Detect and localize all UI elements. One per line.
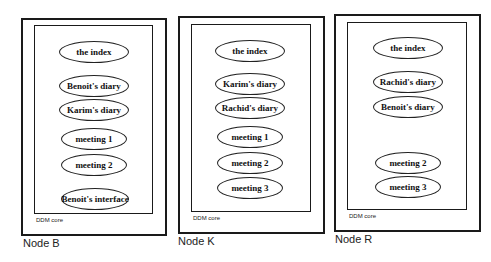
node-b-doc-the-index: the index (59, 41, 129, 63)
node-b-doc-meeting-1: meeting 1 (61, 128, 127, 150)
node-r-doc-benoits-diary: Benoit's diary (373, 96, 443, 118)
node-r-ddm-core-label: DDM core (349, 213, 376, 219)
node-b-doc-karims-diary: Karim's diary (59, 99, 129, 121)
node-k-doc-rachids-diary: Rachid's diary (215, 97, 285, 119)
node-b-ddm-core-label: DDM core (36, 217, 63, 223)
node-b-doc-benoits-interface: Benoit's interface (61, 188, 129, 210)
node-r-doc-the-index: the index (373, 37, 443, 59)
node-r-doc-meeting-3: meeting 3 (375, 176, 441, 198)
node-k-doc-the-index: the index (215, 40, 285, 62)
node-k-doc-meeting-2: meeting 2 (217, 152, 283, 174)
node-r-doc-rachids-diary: Rachid's diary (373, 71, 443, 93)
node-b-label: Node B (23, 237, 60, 249)
node-k-label: Node K (178, 235, 215, 247)
node-r-label: Node R (335, 233, 372, 245)
node-b-doc-benoits-diary: Benoit's diary (59, 75, 129, 97)
node-k-doc-karims-diary: Karim's diary (215, 73, 285, 95)
node-b-doc-meeting-2: meeting 2 (61, 154, 127, 176)
node-r-doc-meeting-2: meeting 2 (375, 152, 441, 174)
node-k-ddm-core-label: DDM core (193, 215, 220, 221)
node-k-doc-meeting-1: meeting 1 (217, 126, 283, 148)
node-k-doc-meeting-3: meeting 3 (217, 177, 283, 199)
